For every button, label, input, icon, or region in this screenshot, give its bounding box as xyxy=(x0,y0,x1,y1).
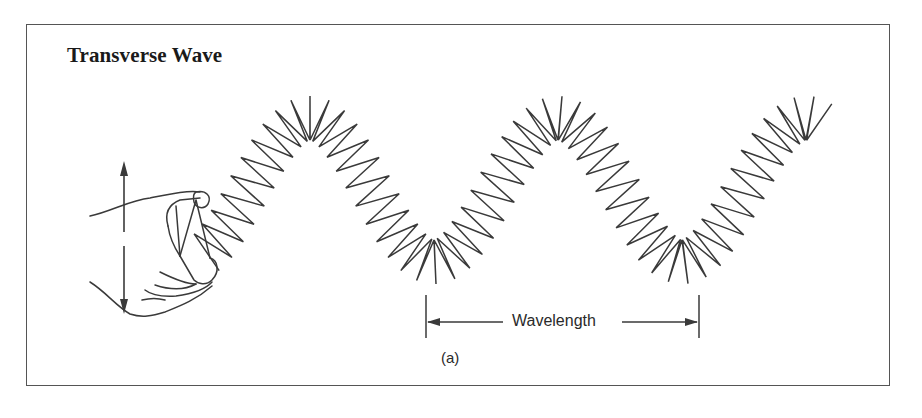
wavelength-label: Wavelength xyxy=(509,312,599,330)
vertical-double-arrow-icon xyxy=(120,161,128,314)
hand-icon xyxy=(90,191,217,316)
figure-sublabel: (a) xyxy=(441,349,459,366)
diagram-canvas xyxy=(0,0,922,418)
arrowhead-left-icon xyxy=(427,318,440,326)
transverse-wave-spring xyxy=(194,96,832,284)
arrowhead-right-icon xyxy=(685,318,698,326)
